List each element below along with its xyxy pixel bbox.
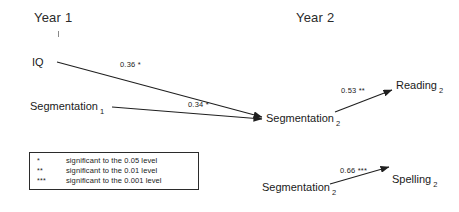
node-segmentation-2-middle-label: Segmentation xyxy=(266,112,334,124)
path-coefficient-segmentation2-to-reading2: 0.53 ** xyxy=(341,86,365,95)
node-spelling-2-subscript: 2 xyxy=(433,180,437,189)
tick-mark xyxy=(58,31,59,37)
node-reading-2: Reading2 xyxy=(396,80,441,91)
path-coefficient-iq-to-segmentation2: 0.36 * xyxy=(120,60,141,69)
legend-row: *significant to the 0.05 level xyxy=(30,156,198,166)
node-segmentation-1-subscript: 1 xyxy=(100,107,104,116)
node-segmentation-2-bottom: Segmentation2 xyxy=(262,182,334,193)
path-coefficient-segmentation2-to-spelling2: 0.66 *** xyxy=(340,166,367,175)
node-spelling-2-label: Spelling xyxy=(392,173,431,185)
legend-row: ***significant to the 0.001 level xyxy=(30,176,198,186)
node-segmentation-2-bottom-subscript: 2 xyxy=(332,188,336,197)
arrow-segmentation1-to-segmentation2 xyxy=(112,107,262,119)
legend-stars: *** xyxy=(30,177,66,184)
year-2-heading: Year 2 xyxy=(296,10,334,25)
node-segmentation-1: Segmentation1 xyxy=(30,101,102,112)
node-segmentation-1-label: Segmentation xyxy=(30,100,98,112)
node-spelling-2: Spelling2 xyxy=(392,174,435,185)
year-1-heading: Year 1 xyxy=(34,10,72,25)
legend-text: significant to the 0.05 level xyxy=(66,156,157,165)
legend-stars: ** xyxy=(30,167,66,174)
legend-stars: * xyxy=(30,157,66,164)
significance-legend: *significant to the 0.05 level**signific… xyxy=(29,152,199,190)
legend-text: significant to the 0.01 level xyxy=(66,166,157,175)
legend-row: **significant to the 0.01 level xyxy=(30,166,198,176)
legend-text: significant to the 0.001 level xyxy=(66,176,162,185)
path-coefficient-segmentation1-to-segmentation2: 0.34 * xyxy=(188,100,209,109)
node-segmentation-2-middle-subscript: 2 xyxy=(336,119,340,128)
node-iq-label: IQ xyxy=(32,56,44,68)
node-segmentation-2-bottom-label: Segmentation xyxy=(262,181,330,193)
path-diagram-canvas: Year 1 Year 2 IQ Segmentation1 Segmentat… xyxy=(0,0,459,212)
node-iq: IQ xyxy=(32,57,44,68)
node-segmentation-2-middle: Segmentation2 xyxy=(266,113,338,124)
node-reading-2-label: Reading xyxy=(396,79,437,91)
significance-legend-list: *significant to the 0.05 level**signific… xyxy=(30,153,198,189)
node-reading-2-subscript: 2 xyxy=(439,86,443,95)
